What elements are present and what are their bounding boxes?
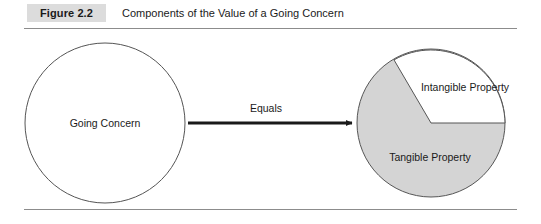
equals-label: Equals (250, 102, 282, 114)
figure-header: Figure 2.2 Components of the Value of a … (0, 0, 541, 28)
header-divider (24, 28, 517, 29)
diagram-canvas: Going Concern Equals Intangible Property… (0, 30, 541, 208)
intangible-property-label: Intangible Property (421, 81, 510, 93)
going-concern-label: Going Concern (70, 117, 141, 129)
tangible-property-label: Tangible Property (389, 151, 471, 163)
figure-number-label: Figure 2.2 (27, 4, 106, 22)
figure-number-badge: Figure 2.2 (27, 4, 106, 22)
figure-container: Figure 2.2 Components of the Value of a … (0, 0, 541, 224)
figure-title: Components of the Value of a Going Conce… (122, 4, 344, 22)
footer-divider (24, 209, 517, 210)
